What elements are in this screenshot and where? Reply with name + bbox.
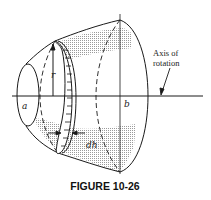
shaded-region-top [58,28,132,60]
shaded-region-bottom [34,118,136,172]
label-r: r [51,70,56,80]
axis-label-pointer [160,68,170,95]
label-b: b [124,99,130,109]
left-end-ellipse [17,64,39,126]
label-axis-line1: Axis of [153,48,178,58]
solid-of-revolution-diagram: a b r dh Axis of rotation FIGURE 10-26 [0,0,211,200]
label-axis-line2: rotation [153,58,180,68]
label-dh: dh [86,140,98,150]
figure-caption: FIGURE 10-26 [70,180,140,192]
label-a: a [22,101,27,111]
